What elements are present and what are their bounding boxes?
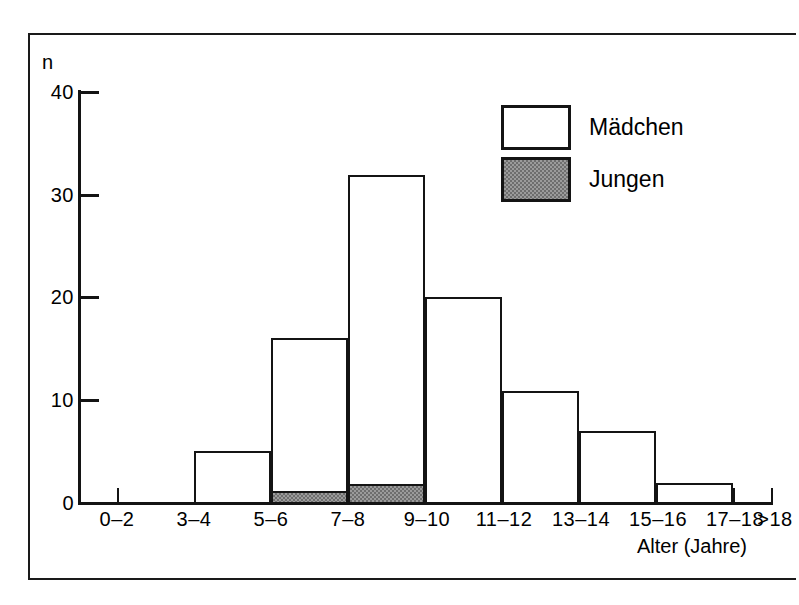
x-tick-7-8 bbox=[348, 488, 350, 505]
bar-girls-7-8 bbox=[271, 338, 348, 493]
x-tick-0 bbox=[79, 488, 81, 505]
y-tick-label-20: 20 bbox=[30, 287, 74, 307]
legend: Mädchen Jungen bbox=[501, 105, 751, 209]
x-label-3-4: 3–4 bbox=[177, 508, 212, 530]
y-tick-label-10-wrap: 10 bbox=[26, 390, 74, 410]
legend-label-jungen: Jungen bbox=[589, 165, 664, 193]
bar-girls-11-12 bbox=[425, 297, 502, 505]
legend-swatch-maedchen bbox=[501, 105, 571, 150]
y-tick-label-20-wrap: 20 bbox=[26, 287, 74, 307]
x-axis-label: Alter (Jahre) bbox=[637, 535, 747, 557]
bar-girls-9-10 bbox=[348, 175, 425, 486]
x-tick-5-6 bbox=[271, 488, 273, 505]
x-label-11-12: 11–12 bbox=[476, 508, 533, 530]
x-label-5-6: 5–6 bbox=[254, 508, 289, 530]
x-tick-13-14 bbox=[579, 488, 581, 505]
y-tick-label-0: 0 bbox=[30, 493, 74, 513]
bar-girls-13-14 bbox=[502, 391, 579, 505]
x-label-gt18: >18 bbox=[757, 508, 792, 530]
x-tick-17-18 bbox=[733, 488, 735, 505]
x-label-17-18: 17–18 bbox=[706, 508, 764, 530]
plot-area: n 40 30 20 10 0 bbox=[0, 0, 799, 605]
y-tick-10 bbox=[81, 399, 99, 402]
x-tick-3-4 bbox=[194, 488, 196, 505]
y-tick-20 bbox=[81, 296, 99, 299]
y-tick-label-10: 10 bbox=[30, 390, 74, 410]
y-tick-40 bbox=[81, 91, 99, 94]
y-tick-label-0-wrap: 0 bbox=[26, 493, 74, 513]
legend-swatch-jungen bbox=[501, 157, 571, 202]
y-tick-label-30: 30 bbox=[30, 185, 74, 205]
bar-girls-15-16 bbox=[579, 431, 656, 505]
x-tick-9-10 bbox=[425, 488, 427, 505]
legend-item-jungen: Jungen bbox=[501, 157, 751, 209]
x-label-7-8: 7–8 bbox=[331, 508, 366, 530]
legend-item-maedchen: Mädchen bbox=[501, 105, 751, 157]
x-label-15-16: 15–16 bbox=[629, 508, 687, 530]
y-tick-label-30-wrap: 30 bbox=[26, 185, 74, 205]
y-tick-label-40: 40 bbox=[30, 82, 74, 102]
y-tick-label-40-wrap: 40 bbox=[26, 82, 74, 102]
y-tick-30 bbox=[81, 194, 99, 197]
x-tick-15-16 bbox=[656, 488, 658, 505]
bar-girls-5-6 bbox=[194, 451, 271, 505]
figure-page: n 40 30 20 10 0 bbox=[0, 0, 799, 605]
x-label-13-14: 13–14 bbox=[552, 508, 610, 530]
x-label-0-2: 0–2 bbox=[100, 508, 135, 530]
x-label-9-10: 9–10 bbox=[404, 508, 451, 530]
legend-label-maedchen: Mädchen bbox=[589, 113, 684, 141]
y-axis-label: n bbox=[42, 52, 53, 72]
x-tick-0-2 bbox=[117, 488, 119, 505]
x-tick-11-12 bbox=[502, 488, 504, 505]
x-tick-gt18 bbox=[771, 488, 773, 505]
